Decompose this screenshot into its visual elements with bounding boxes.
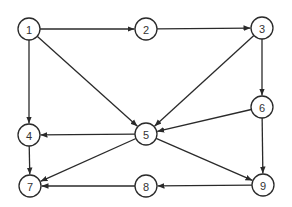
- edge-6-to-5: [157, 109, 251, 131]
- node-8: 8: [135, 175, 157, 197]
- node-label: 4: [26, 130, 32, 142]
- edge-6-to-9: [262, 118, 263, 174]
- edge-9-to-8: [157, 185, 252, 186]
- node-label: 8: [143, 181, 149, 193]
- node-6: 6: [251, 96, 273, 118]
- graph-diagram: 123456789: [0, 0, 292, 207]
- edge-4-to-7: [29, 146, 30, 175]
- edge-2-to-3: [157, 28, 251, 29]
- node-label: 5: [143, 129, 149, 141]
- node-9: 9: [252, 174, 274, 196]
- node-1: 1: [18, 18, 40, 40]
- node-label: 9: [260, 180, 266, 192]
- node-label: 2: [143, 24, 149, 36]
- node-label: 6: [259, 102, 265, 114]
- node-5: 5: [135, 123, 157, 145]
- node-3: 3: [251, 17, 273, 39]
- node-label: 7: [27, 181, 33, 193]
- edge-5-to-7: [40, 138, 135, 181]
- node-label: 1: [26, 24, 32, 36]
- nodes-layer: 123456789: [18, 17, 274, 197]
- graph-canvas: 123456789: [0, 0, 292, 207]
- node-7: 7: [19, 175, 41, 197]
- node-4: 4: [18, 124, 40, 146]
- edge-5-to-9: [156, 138, 252, 180]
- node-2: 2: [135, 18, 157, 40]
- edges-layer: [29, 28, 263, 186]
- edge-5-to-4: [40, 134, 135, 135]
- edge-1-to-5: [37, 36, 137, 126]
- node-label: 3: [259, 23, 265, 35]
